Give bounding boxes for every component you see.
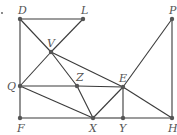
segment-xe <box>93 87 123 118</box>
label-v: V <box>47 37 56 50</box>
label-x: X <box>88 122 98 135</box>
segment-ze <box>77 86 123 87</box>
segment-vq <box>20 52 51 86</box>
label-e: E <box>118 72 127 85</box>
segment-ve <box>51 52 123 87</box>
point-e <box>121 85 125 89</box>
label-z: Z <box>75 71 84 84</box>
stray-mark <box>1 12 3 14</box>
label-f: F <box>16 122 25 135</box>
label-p: P <box>168 4 177 17</box>
label-h: H <box>167 122 177 135</box>
label-y: Y <box>119 122 128 135</box>
segment-vz <box>51 52 77 86</box>
label-q: Q <box>7 80 16 93</box>
point-l <box>81 17 85 21</box>
point-x <box>91 116 95 120</box>
segment-lv <box>51 19 83 52</box>
segment-zx <box>77 86 93 118</box>
geometry-diagram: DLPVQZEFXYH <box>0 0 177 135</box>
point-y <box>121 116 125 120</box>
point-f <box>18 116 22 120</box>
point-v <box>49 50 53 54</box>
segment-ep <box>123 19 172 87</box>
point-d <box>18 17 22 21</box>
point-h <box>170 116 174 120</box>
segments-layer <box>20 19 172 118</box>
point-p <box>170 17 174 21</box>
segment-eh <box>123 87 172 118</box>
point-q <box>18 84 22 88</box>
point-z <box>75 84 79 88</box>
label-d: D <box>17 4 27 17</box>
segment-qx <box>20 86 93 118</box>
label-l: L <box>80 4 88 17</box>
